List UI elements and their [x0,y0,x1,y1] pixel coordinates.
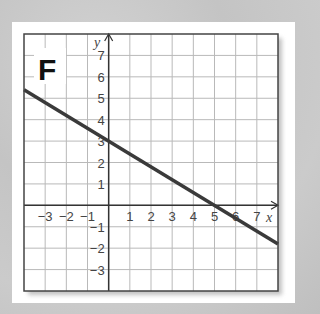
svg-text:−2: −2 [90,241,105,256]
svg-text:−2: −2 [59,209,74,224]
svg-text:−1: −1 [90,220,105,235]
svg-text:3: 3 [169,209,176,224]
svg-text:−3: −3 [90,263,105,278]
svg-text:4: 4 [97,113,104,128]
svg-text:7: 7 [253,209,260,224]
y-axis-label: y [92,35,101,50]
panel-label: F [38,53,56,86]
svg-text:2: 2 [97,156,104,171]
svg-text:1: 1 [97,177,104,192]
svg-text:4: 4 [190,209,197,224]
svg-text:7: 7 [97,48,104,63]
x-axis-label: x [265,210,273,225]
coordinate-plane: −3−2−112345677654321−1−2−3 F x y [0,0,303,314]
svg-text:−3: −3 [38,209,53,224]
svg-text:6: 6 [97,70,104,85]
svg-text:5: 5 [97,91,104,106]
svg-text:1: 1 [126,209,133,224]
svg-text:2: 2 [147,209,154,224]
svg-text:5: 5 [211,209,218,224]
